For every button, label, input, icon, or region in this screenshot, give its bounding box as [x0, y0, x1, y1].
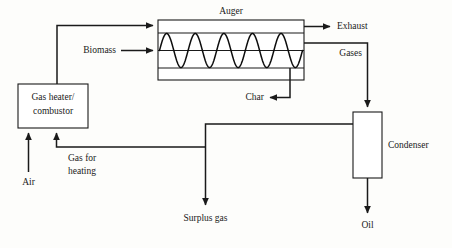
gases-label: Gases: [339, 48, 362, 58]
gas-heater-combustor-unit: Gas heater/ combustor: [18, 84, 88, 128]
auger-unit: Auger: [158, 6, 304, 80]
exhaust-label: Exhaust: [337, 21, 368, 31]
gas-for-heating-labels: Gas for heating: [68, 153, 97, 176]
condenser-body: [353, 112, 382, 178]
auger-label: Auger: [219, 6, 244, 16]
gas-heater-label-line1: Gas heater/: [32, 92, 75, 102]
gas-for-heating-label-line2: heating: [68, 166, 96, 176]
biomass-stream: Biomass: [83, 45, 153, 55]
air-stream: Air: [22, 133, 36, 187]
condenser-offgas-to-surplus-pipe: [206, 124, 354, 205]
gases-stream: Gases: [304, 43, 368, 107]
flowsheet-canvas: Auger Gas heater/ combustor Condenser Bi…: [0, 0, 452, 248]
condenser-unit: Condenser: [353, 112, 429, 178]
gas-for-heating-pipe: [57, 133, 206, 147]
gas-heater-label-line2: combustor: [33, 106, 74, 116]
oil-label: Oil: [361, 220, 374, 230]
air-label: Air: [22, 177, 36, 187]
char-label: Char: [246, 92, 265, 102]
condenser-label: Condenser: [388, 140, 429, 150]
process-flow-diagram: Auger Gas heater/ combustor Condenser Bi…: [0, 0, 452, 248]
surplus-gas-label: Surplus gas: [183, 213, 227, 223]
biomass-label: Biomass: [83, 45, 116, 55]
oil-stream: Oil: [361, 178, 374, 230]
exhaust-stream: Exhaust: [304, 21, 368, 31]
hot-gas-pipe-to-auger: [57, 26, 153, 85]
gas-for-heating-label-line1: Gas for: [68, 153, 97, 163]
